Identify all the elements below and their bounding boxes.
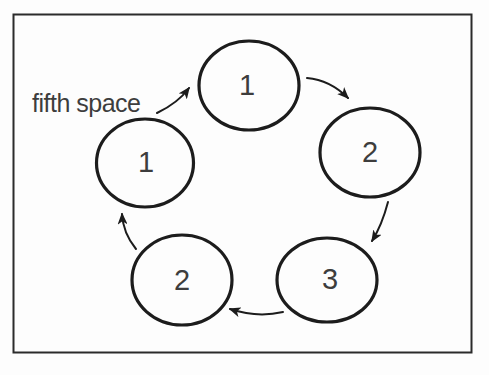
node-bottom-right: 3	[277, 238, 377, 322]
node-bottom-right-label: 3	[322, 263, 338, 295]
arrow-bottom-right-to-bottom-left	[230, 309, 283, 314]
arrow-right-to-bottom-right	[372, 202, 388, 241]
node-left: 1	[97, 119, 194, 207]
node-bottom-left: 2	[132, 235, 232, 325]
arrow-top-to-right	[307, 78, 348, 98]
fifth-space-label: fifth space	[32, 89, 140, 117]
node-right-label: 2	[362, 136, 378, 168]
node-left-label: 1	[138, 146, 154, 178]
fifth-space-arrow	[157, 88, 189, 113]
node-top-label: 1	[239, 69, 255, 101]
node-right: 2	[320, 108, 420, 197]
node-bottom-left-label: 2	[174, 264, 190, 296]
node-top: 1	[199, 41, 299, 130]
arrow-bottom-left-to-left	[122, 214, 136, 249]
scanned-figure-page: fifth space 1 2 3 2 1	[0, 0, 489, 375]
cycle-diagram: fifth space 1 2 3 2 1	[0, 0, 489, 375]
